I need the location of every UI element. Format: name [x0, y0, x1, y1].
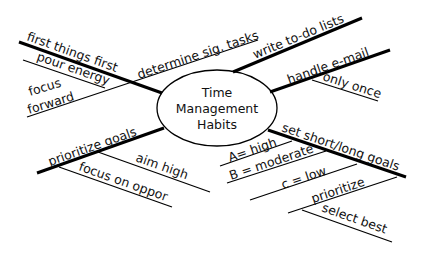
- sub-sub-branch-label-select-best: select best: [320, 200, 389, 237]
- center-title-line-3: Habits: [197, 117, 237, 132]
- center-title-line-2: Management: [176, 101, 258, 116]
- branch-label: write to-do lists: [250, 11, 345, 62]
- mind-map-diagram: Time Management Habits first things firs…: [0, 0, 428, 255]
- sub-branch-label-aim-high: aim high: [134, 150, 190, 182]
- sub-branch-label-only-once: only once: [321, 69, 384, 102]
- center-node: Time Management Habits: [157, 70, 277, 146]
- branch-handle-e-mail: handle e-mail only once: [270, 44, 390, 101]
- center-title-line-1: Time: [201, 85, 233, 100]
